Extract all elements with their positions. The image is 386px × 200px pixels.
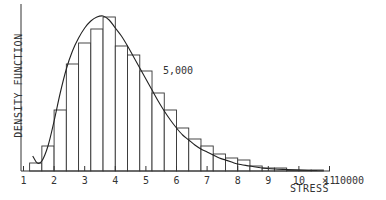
x-tick-label: 10 [293,175,305,186]
x-tick-label: 1 [20,175,26,186]
y-axis-label: DENSITY FUNCTION [13,16,24,156]
histogram-bar [79,43,91,171]
histogram-bar [91,29,103,171]
x-scale-label: × 10000 [322,175,364,186]
sample-size-annotation: 5,000 [163,65,193,76]
histogram-bar [66,64,78,171]
histogram-chart [0,0,386,200]
histogram-bar [152,93,164,171]
x-tick-label: 4 [112,175,118,186]
x-tick-label: 9 [265,175,271,186]
x-tick-label: 3 [82,175,88,186]
histogram-bar [30,163,42,171]
histogram-bars [30,17,324,171]
histogram-bar [115,46,127,171]
histogram-bar [225,158,237,171]
histogram-bar [54,110,66,171]
x-tick-label: 8 [235,175,241,186]
histogram-bar [189,139,201,171]
histogram-bar [103,17,115,171]
x-tick-label: 6 [173,175,179,186]
x-tick-label: 5 [143,175,149,186]
x-tick-label: 2 [51,175,57,186]
histogram-bar [128,55,140,171]
x-tick-label: 7 [204,175,210,186]
